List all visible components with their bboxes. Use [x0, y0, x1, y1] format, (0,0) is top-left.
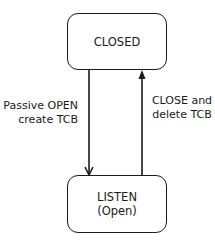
state-closed-label: CLOSED [94, 35, 141, 49]
state-listen: LISTEN (Open) [67, 175, 167, 233]
arrow-listen-to-closed [139, 70, 146, 175]
transition-label-close: CLOSE and delete TCB [152, 94, 212, 122]
arrow-closed-to-listen [85, 70, 93, 175]
state-listen-label: LISTEN [97, 190, 137, 204]
transition-label-line: Passive OPEN [3, 99, 78, 113]
transition-label-line: delete TCB [152, 108, 212, 122]
transition-label-passive-open: Passive OPEN create TCB [3, 99, 78, 127]
transition-label-line: create TCB [3, 113, 78, 127]
transition-label-line: CLOSE and [152, 94, 212, 108]
state-listen-sublabel: (Open) [97, 204, 137, 218]
state-closed: CLOSED [67, 13, 167, 70]
